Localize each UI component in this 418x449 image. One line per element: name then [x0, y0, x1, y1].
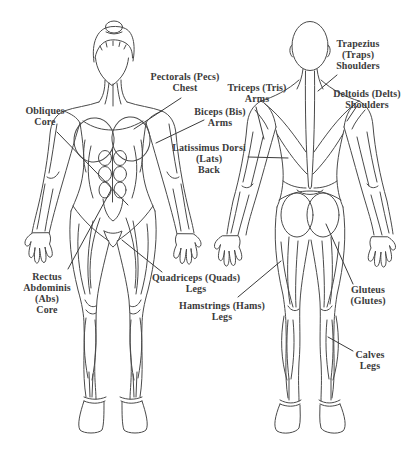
- label-latissimus: Latissimus Dorsi (Lats) Back: [172, 142, 246, 175]
- front-pec-left: [72, 116, 116, 164]
- leader-line-calves: [328, 337, 353, 351]
- back-leg: [275, 207, 309, 433]
- label-line: Arms: [227, 93, 286, 104]
- front-face: [96, 58, 129, 86]
- back-left-hand: [214, 236, 241, 266]
- label-line: Gluteus: [350, 284, 385, 295]
- label-rectus-abdominis: Rectus Abdominis (Abs) Core: [23, 271, 71, 315]
- label-line: Obliques: [25, 105, 64, 116]
- back-glute-left: [281, 193, 313, 237]
- label-line: Arms: [194, 117, 245, 128]
- label-line: (Traps): [336, 49, 380, 60]
- label-line: (Abs): [23, 293, 71, 304]
- label-trapezius: Trapezius (Traps) Shoulders: [336, 38, 380, 71]
- label-line: (Glutes): [350, 295, 385, 306]
- leader-line-gluteus: [326, 224, 353, 284]
- back-torso-side: [276, 130, 307, 207]
- label-line: Core: [23, 304, 71, 315]
- leader-line-obliques: [57, 132, 128, 205]
- label-gluteus: Gluteus (Glutes): [350, 284, 385, 306]
- label-line: Triceps (Tris): [227, 82, 286, 93]
- muscle-anatomy-diagram: Obliques Core Pectorals (Pecs) Chest Bic…: [0, 0, 418, 449]
- label-line: Legs: [179, 311, 265, 322]
- label-line: (Lats): [172, 153, 246, 164]
- front-right-hand: [174, 234, 201, 264]
- back-right-hand: [368, 237, 395, 267]
- label-line: Biceps (Bis): [194, 106, 245, 117]
- label-line: Back: [172, 164, 246, 175]
- label-line: Hamstrings (Hams): [179, 300, 265, 311]
- label-hamstrings: Hamstrings (Hams) Legs: [179, 300, 265, 322]
- label-deltoids: Deltoids (Delts) Shoulders: [333, 88, 400, 110]
- label-line: Core: [25, 116, 64, 127]
- label-line: Calves: [356, 349, 385, 360]
- label-triceps: Triceps (Tris) Arms: [227, 82, 286, 104]
- front-leg: [70, 211, 109, 433]
- front-left-hand: [25, 233, 52, 263]
- leader-line-triceps: [256, 107, 264, 139]
- back-spine: [305, 71, 308, 186]
- label-line: Pectorals (Pecs): [150, 71, 219, 82]
- label-line: Trapezius: [336, 38, 380, 49]
- label-line: Abdominis: [23, 282, 71, 293]
- label-line: Quadriceps (Quads): [152, 272, 240, 283]
- label-line: Legs: [152, 283, 240, 294]
- label-line: Rectus: [23, 271, 71, 282]
- back-glute-right: [307, 193, 339, 237]
- label-obliques: Obliques Core: [25, 105, 64, 127]
- leader-line-hamstrings: [238, 261, 281, 297]
- front-arm: [32, 111, 80, 234]
- label-biceps: Biceps (Bis) Arms: [194, 106, 245, 128]
- front-oblique-left: [88, 146, 93, 198]
- label-line: Shoulders: [333, 99, 400, 110]
- label-line: Chest: [150, 82, 219, 93]
- back-head: [292, 22, 328, 71]
- label-quadriceps: Quadriceps (Quads) Legs: [152, 272, 240, 294]
- front-oblique-right: [132, 146, 137, 198]
- label-line: Shoulders: [336, 60, 380, 71]
- label-pectorals: Pectorals (Pecs) Chest: [150, 71, 219, 93]
- label-line: Deltoids (Delts): [333, 88, 400, 99]
- label-line: Legs: [356, 360, 385, 371]
- label-line: Latissimus Dorsi: [172, 142, 246, 153]
- label-calves: Calves Legs: [356, 349, 385, 371]
